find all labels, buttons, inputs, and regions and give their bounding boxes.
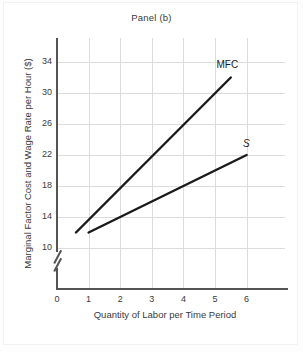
series-label-s: S xyxy=(243,138,250,149)
gridline-vertical xyxy=(120,38,121,288)
gridline-vertical xyxy=(152,38,153,288)
x-tick-label: 2 xyxy=(110,294,130,304)
y-axis-line-upper xyxy=(56,38,58,252)
gridline-horizontal xyxy=(57,93,285,94)
y-tick-label: 30 xyxy=(30,87,52,97)
y-tick-label: 18 xyxy=(30,180,52,190)
x-tick-label: 6 xyxy=(237,294,257,304)
x-axis-line xyxy=(56,288,288,290)
y-tick-label: 34 xyxy=(30,56,52,66)
gridline-vertical xyxy=(183,38,184,288)
x-axis-title: Quantity of Labor per Time Period xyxy=(40,309,290,320)
y-tick-label: 26 xyxy=(30,118,52,128)
series-label-mfc: MFC xyxy=(216,59,238,70)
gridline-horizontal xyxy=(57,124,285,125)
y-tick-label: 22 xyxy=(30,149,52,159)
y-tick-label: 10 xyxy=(30,242,52,252)
x-tick-label: 5 xyxy=(205,294,225,304)
gridline-horizontal xyxy=(57,155,285,156)
y-tick-label: 14 xyxy=(30,211,52,221)
gridline-vertical xyxy=(89,38,90,288)
x-tick-label: 1 xyxy=(79,294,99,304)
gridline-horizontal xyxy=(57,248,285,249)
gridline-horizontal xyxy=(57,62,285,63)
gridline-horizontal xyxy=(57,217,285,218)
gridline-vertical xyxy=(247,38,248,288)
plot-area xyxy=(57,38,285,288)
x-tick-labels: 0123456 xyxy=(0,294,303,308)
x-tick-label: 0 xyxy=(47,294,67,304)
chart-container: Panel (b) 10141822263034 0123456 Quantit… xyxy=(0,0,303,352)
gridline-horizontal xyxy=(57,186,285,187)
gridline-vertical xyxy=(215,38,216,288)
x-tick-label: 4 xyxy=(173,294,193,304)
y-axis-title: Marginal Factor Cost and Wage Rate per H… xyxy=(22,39,33,289)
x-tick-label: 3 xyxy=(142,294,162,304)
